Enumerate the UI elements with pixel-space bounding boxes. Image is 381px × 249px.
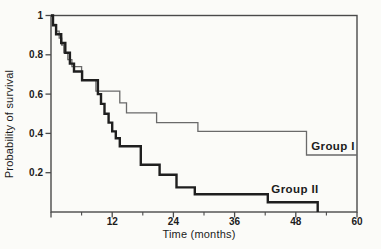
x-tick-label: 60 xyxy=(351,216,363,227)
y-axis-title: Probability of survival xyxy=(3,70,15,179)
x-axis-title: Time (months) xyxy=(162,228,235,240)
survival-figure: 122436486010.80.60.40.2 Time (months) Pr… xyxy=(0,0,381,249)
x-tick-label: 36 xyxy=(229,216,241,227)
y-tick-label: 0.6 xyxy=(29,89,43,100)
y-tick-label: 0.8 xyxy=(29,49,43,60)
y-tick-label: 0.4 xyxy=(29,128,43,139)
x-tick-label: 12 xyxy=(107,216,119,227)
y-tick-label: 0.2 xyxy=(29,167,43,178)
survival-chart: 122436486010.80.60.40.2 Time (months) Pr… xyxy=(0,0,381,249)
y-tick-label: 1 xyxy=(37,10,43,21)
group-i-label: Group I xyxy=(311,140,355,152)
x-tick-label: 48 xyxy=(290,216,302,227)
group-ii-label: Group II xyxy=(271,183,318,195)
x-tick-label: 24 xyxy=(168,216,180,227)
